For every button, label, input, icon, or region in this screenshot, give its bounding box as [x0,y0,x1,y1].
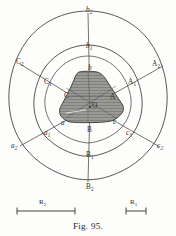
axis-label-B2: B2 [86,184,93,191]
center-label-O: O [92,103,97,110]
axis-label-b: b [88,65,92,72]
center-point [89,106,91,108]
scale-bar-R1 [126,208,146,215]
axis-label-c: c [113,119,116,126]
scale-label-subscript: 2 [44,202,47,207]
axis-label-subscript: 2 [21,61,24,67]
axis-label-subscript: 1 [90,45,93,51]
axis-label-subscript: 2 [90,9,93,15]
scale-label-R1: R1 [130,198,137,206]
axis-label-b2: b2 [86,7,92,14]
axis-label-a: a [61,120,65,127]
scale-label-subscript: 1 [135,202,138,207]
axis-label-A2: A2 [152,61,160,68]
axis-label-subscript: 1 [91,154,94,160]
axis-label-A1: A1 [128,79,136,86]
axis-label-subscript: 2 [157,63,160,69]
axis-label-subscript: 2 [160,145,163,151]
axis-label-subscript: 1 [129,132,132,138]
axis-label-subscript: 2 [15,145,18,151]
axis-label-A: A [110,94,115,101]
axis-label-B: B [87,127,92,134]
axis-label-subscript: 1 [133,81,136,87]
figure-container: b2b1bA2A1AC2C1Ca2a1ac2c1cBB1B2 R2R1 O Fi… [0,0,176,236]
axis-label-C: C [64,93,69,100]
axis-label-subscript: 1 [48,132,51,138]
axis-label-subscript: 2 [91,186,94,192]
axis-label-C1: C1 [44,79,51,86]
axis-label-c1: c1 [126,130,132,137]
scale-label-R2: R2 [39,198,46,206]
axis-label-a2: a2 [11,143,17,150]
axis-label-subscript: 1 [49,81,52,87]
axis-label-b1: b1 [86,43,92,50]
axis-label-C2: C2 [16,59,23,66]
figure-caption: Fig. 95. [0,221,176,231]
axis-label-B1: B1 [86,152,93,159]
axis-label-c2: c2 [157,143,163,150]
axis-label-a1: a1 [44,130,50,137]
scale-bar-R2 [17,208,75,215]
figure-drawing [0,0,176,236]
